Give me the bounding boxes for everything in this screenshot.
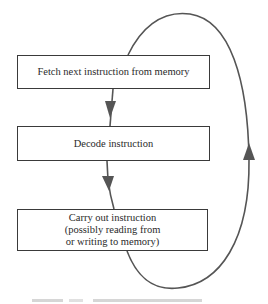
step-execute-label-line3: or writing to memory) <box>66 236 160 248</box>
arrowhead-down-icon <box>102 176 114 191</box>
step-execute-label-line1: Carry out instruction <box>69 212 157 224</box>
step-fetch-label: Fetch next instruction from memory <box>37 66 189 78</box>
step-execute-box: Carry out instruction (possibly reading … <box>17 209 208 251</box>
figure-caption <box>32 296 202 304</box>
arrowhead-down-icon <box>105 101 116 118</box>
arrowhead-up-icon <box>243 143 255 160</box>
step-decode-label: Decode instruction <box>74 138 154 150</box>
step-fetch-box: Fetch next instruction from memory <box>17 55 210 89</box>
step-execute-label-line2: (possibly reading from <box>65 224 161 236</box>
step-decode-box: Decode instruction <box>17 126 210 161</box>
figure-caption-cropped-text <box>32 299 202 302</box>
fetch-decode-execute-diagram: Fetch next instruction from memory Decod… <box>0 0 268 304</box>
